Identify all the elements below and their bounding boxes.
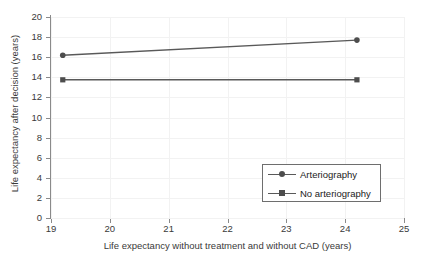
gridline-vertical: [169, 17, 170, 218]
gridline-vertical: [228, 17, 229, 218]
legend-item-arteriography[interactable]: Arteriography: [263, 165, 380, 184]
y-axis-tick: [46, 178, 50, 179]
x-axis-tick-label: 19: [36, 224, 66, 234]
y-axis-tick: [46, 198, 50, 199]
legend-item-no-arteriography[interactable]: No arteriography: [263, 184, 380, 203]
x-axis-tick-label: 23: [271, 224, 301, 234]
chart-figure: 0246810121416182019202122232425 Life exp…: [0, 0, 424, 261]
x-axis-label: Life expectancy without treatment and wi…: [51, 240, 404, 251]
y-axis-tick: [46, 37, 50, 38]
gridline-vertical: [51, 17, 52, 218]
gridline-vertical: [404, 17, 405, 218]
y-axis-tick: [46, 77, 50, 78]
x-axis-tick-label: 20: [95, 224, 125, 234]
circle-marker-icon: [268, 168, 296, 182]
y-axis-tick: [46, 218, 50, 219]
y-axis-label: Life expectancy after decision (years): [9, 14, 20, 214]
y-axis-tick: [46, 138, 50, 139]
y-axis-tick: [46, 57, 50, 58]
gridline-vertical: [110, 17, 111, 218]
square-marker-icon: [268, 187, 296, 201]
y-axis-tick: [46, 97, 50, 98]
x-axis-tick-label: 22: [213, 224, 243, 234]
y-axis-tick: [46, 17, 50, 18]
y-axis-tick: [46, 118, 50, 119]
x-axis-tick-label: 21: [154, 224, 184, 234]
y-axis-tick: [46, 158, 50, 159]
legend-label: Arteriography: [300, 169, 357, 180]
chart-legend: Arteriography No arteriography: [262, 164, 381, 202]
y-axis-tick-label: 0: [12, 213, 42, 223]
legend-label: No arteriography: [300, 188, 371, 199]
x-axis-tick-label: 25: [389, 224, 419, 234]
x-axis-tick-label: 24: [330, 224, 360, 234]
